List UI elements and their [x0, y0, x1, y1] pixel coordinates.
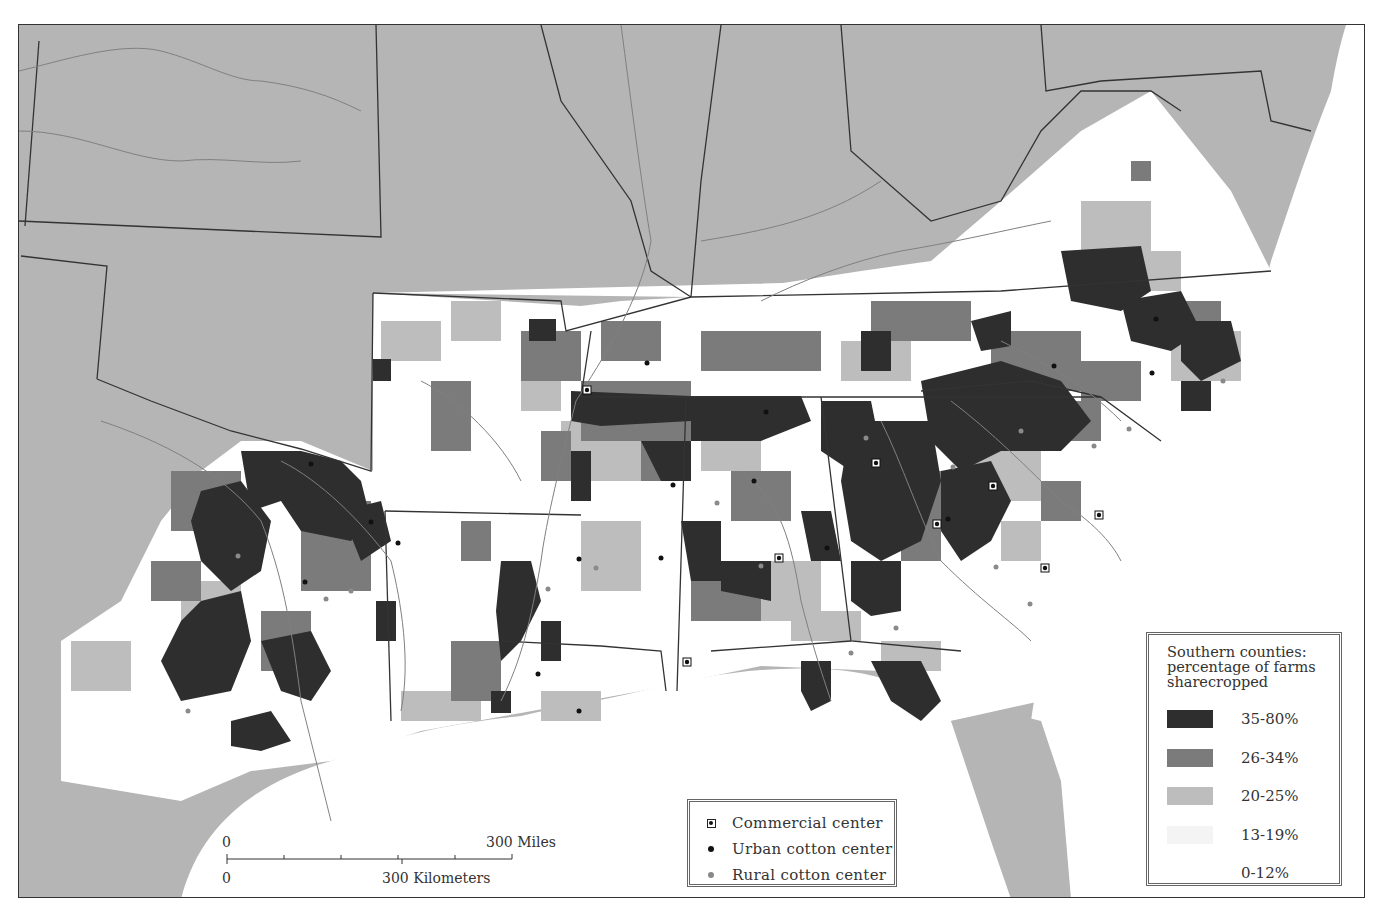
black-dot-icon [708, 846, 714, 852]
legend-class-35-80: 35-80% [1167, 700, 1339, 739]
gray-dot-icon [708, 872, 714, 878]
legend-rural-cotton-center: Rural cotton center [704, 862, 894, 888]
scale-km-zero: 0 [222, 870, 231, 886]
swatch-0-12 [1167, 864, 1213, 882]
swatch-20-25 [1167, 787, 1213, 805]
scale-bar: 0 300 Miles 0 300 Kilometers [222, 832, 562, 892]
legend-class-13-19: 13-19% [1167, 816, 1339, 855]
sharecropping-legend: Southern counties: percentage of farms s… [1146, 632, 1342, 886]
scale-ruler [222, 852, 522, 866]
legend-commercial-center: Commercial center [704, 810, 894, 836]
swatch-35-80 [1167, 710, 1213, 728]
swatch-26-34 [1167, 749, 1213, 767]
legend-urban-cotton-center: Urban cotton center [704, 836, 894, 862]
swatch-13-19 [1167, 826, 1213, 844]
legend-class-26-34: 26-34% [1167, 739, 1339, 778]
square-dot-icon [707, 819, 716, 828]
scale-km-label: 300 Kilometers [382, 870, 490, 886]
scale-miles-zero: 0 [222, 834, 231, 850]
legend-title: Southern counties: percentage of farms s… [1167, 645, 1339, 690]
scale-miles-label: 300 Miles [486, 834, 556, 850]
legend-class-20-25: 20-25% [1167, 777, 1339, 816]
point-symbol-legend: Commercial center Urban cotton center Ru… [687, 799, 897, 887]
legend-class-0-12: 0-12% [1167, 854, 1339, 893]
